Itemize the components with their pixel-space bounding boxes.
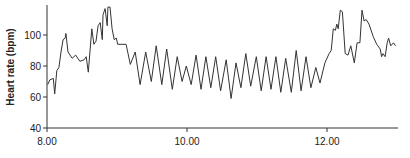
heart-rate-line: [48, 7, 396, 98]
y-tick-label: 100: [24, 30, 41, 41]
x-tick-label: 8.00: [37, 136, 57, 147]
plot-area: [48, 7, 396, 98]
y-tick-label: 80: [30, 61, 42, 72]
y-tick-label: 40: [30, 123, 42, 134]
x-tick-label: 12.00: [314, 136, 339, 147]
y-axis-label: Heart rate (bpm): [5, 28, 16, 105]
y-tick-label: 60: [30, 92, 42, 103]
x-tick-group: 8.0010.0012.00: [37, 128, 340, 147]
heart-rate-chart: 406080100 8.0010.0012.00 Heart rate (bpm…: [0, 0, 410, 158]
y-tick-group: 406080100: [24, 30, 47, 134]
x-tick-label: 10.00: [174, 136, 199, 147]
